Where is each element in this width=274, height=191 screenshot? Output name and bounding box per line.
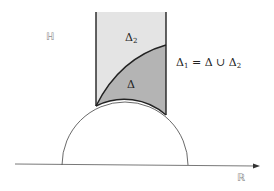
label-delta2-sub: 2: [133, 37, 137, 45]
union-lhs-sub: 1: [184, 62, 188, 70]
unit-semicircle: [62, 102, 188, 165]
label-upper-half-plane: ℍ: [46, 32, 55, 42]
real-axis: [15, 164, 256, 166]
label-real-line: ℝ: [237, 173, 245, 183]
label-union-equation: Δ1 = Δ ∪ Δ2: [176, 57, 241, 70]
label-delta2: Δ2: [125, 32, 137, 45]
arrow-head-icon: [253, 164, 260, 169]
union-rhs: = Δ ∪ Δ: [192, 56, 237, 69]
diagram-canvas: ℍ ℝ Δ2 Δ Δ1 = Δ ∪ Δ2: [0, 0, 274, 191]
union-rhs-sub: 2: [237, 62, 241, 70]
diagram-svg: [0, 0, 274, 191]
union-lhs-base: Δ: [176, 56, 184, 69]
label-delta2-base: Δ: [125, 31, 133, 44]
label-delta: Δ: [127, 79, 135, 90]
